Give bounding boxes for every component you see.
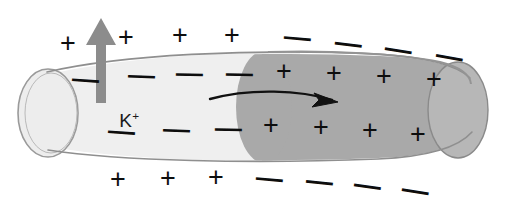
plus-charge-sign: +	[172, 22, 188, 49]
minus-charge-sign: —	[71, 65, 100, 94]
plus-charge-sign: +	[326, 60, 342, 87]
plus-charge-sign: +	[118, 24, 134, 51]
plus-charge-sign: +	[313, 114, 329, 141]
minus-charge-sign: —	[255, 164, 284, 193]
minus-charge-sign: —	[226, 60, 253, 87]
axon-left-cut-end	[18, 69, 78, 157]
minus-charge-sign: —	[352, 170, 382, 200]
plus-charge-sign: +	[224, 22, 240, 49]
plus-charge-sign: +	[160, 165, 176, 192]
plus-charge-sign: +	[276, 58, 292, 85]
minus-charge-sign: —	[176, 60, 203, 87]
plus-charge-sign: +	[263, 112, 279, 139]
minus-charge-sign: —	[333, 28, 363, 58]
plus-charge-sign: +	[376, 63, 392, 90]
plus-charge-sign: +	[426, 66, 442, 93]
plus-charge-sign: +	[110, 166, 126, 193]
minus-charge-sign: —	[215, 115, 242, 142]
minus-charge-sign: —	[305, 167, 335, 197]
minus-charge-sign: —	[128, 62, 156, 90]
plus-charge-sign: +	[410, 121, 426, 148]
plus-charge-sign: +	[208, 164, 224, 191]
minus-charge-sign: —	[107, 117, 136, 146]
minus-charge-sign: —	[163, 116, 191, 144]
plus-charge-sign: +	[362, 117, 378, 144]
diagram-canvas: K+ ++++————————++++———+++++++————	[0, 0, 524, 207]
minus-charge-sign: —	[283, 23, 312, 52]
minus-charge-sign: —	[400, 175, 431, 206]
plus-charge-sign: +	[60, 30, 76, 57]
